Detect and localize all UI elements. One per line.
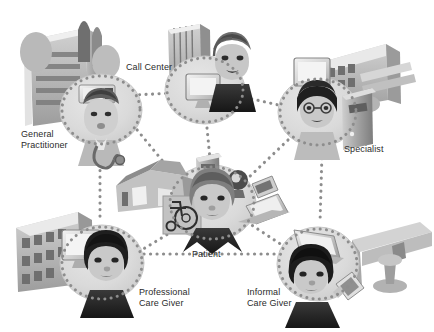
informal-home-interior-icon — [352, 222, 432, 293]
node-professional-care-giver[interactable] — [16, 212, 144, 318]
node-specialist[interactable] — [278, 44, 416, 160]
connector-callcenter-pat — [207, 128, 210, 159]
label-informal-care-giver: Informal Care Giver — [247, 287, 292, 309]
connector-spec-patient — [245, 140, 288, 181]
label-call-center: Call Center — [126, 62, 172, 73]
specialist-pc-tower-icon — [342, 88, 376, 150]
label-general-practitioner: General Practitioner — [21, 129, 68, 151]
label-professional-care-giver: Professional Care Giver — [139, 287, 190, 309]
diagram-canvas: General Practitioner Call Center Special… — [0, 0, 434, 332]
label-specialist: Specialist — [344, 144, 384, 155]
node-call-center[interactable] — [165, 24, 256, 124]
connector-patient-informal — [247, 222, 285, 247]
gp-stethoscope-bell-icon — [116, 156, 125, 165]
label-patient: Patient — [192, 249, 221, 260]
network-diagram-svg — [0, 0, 434, 332]
patient-pda-icon — [252, 176, 278, 198]
connector-spec-informal — [320, 152, 322, 223]
